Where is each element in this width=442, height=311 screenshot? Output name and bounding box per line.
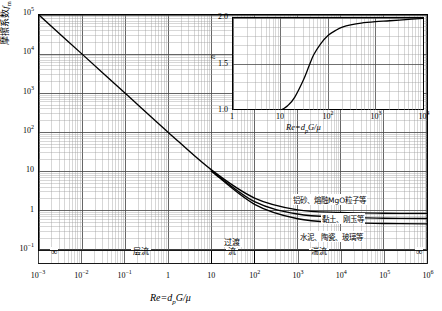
main-x-tick-label: 10−1 xyxy=(114,272,136,280)
flow-regime-band xyxy=(38,250,428,270)
figure-root: 摩擦系数fm Re=dpG/μ 10510410310210110−1 10−3… xyxy=(0,0,442,311)
inset-chart-plot-area xyxy=(232,17,424,110)
main-x-tick-label: 10 xyxy=(200,272,222,280)
inset-x-axis-label: Re=dpG/μ xyxy=(286,122,321,132)
main-x-axis-label-tail: G/μ xyxy=(176,292,191,303)
main-y-tick-label: 10−1 xyxy=(0,245,34,253)
main-x-tick-label: 10−2 xyxy=(70,272,92,280)
main-y-tick-label: 104 xyxy=(0,48,34,56)
inset-x-axis-label-tail: G/μ xyxy=(308,122,321,132)
annotation-cement-ceramic-glass: 水泥、陶瓷、玻璃等 xyxy=(299,231,364,242)
main-x-tick-label: 10−3 xyxy=(27,272,49,280)
main-y-tick-label: 10 xyxy=(0,166,34,174)
main-x-axis-label: Re=dpG/μ xyxy=(150,292,191,303)
main-y-tick-label: 103 xyxy=(0,88,34,96)
main-x-tick-label: 104 xyxy=(330,272,352,280)
inset-x-tick-label: 1 xyxy=(221,113,243,121)
main-y-tick-label: 1 xyxy=(0,206,34,214)
inset-x-tick-label: 102 xyxy=(317,113,339,121)
main-x-tick-label: 1 xyxy=(157,272,179,280)
main-x-tick-label: 106 xyxy=(417,272,439,280)
main-x-tick-label: 102 xyxy=(244,272,266,280)
main-y-tick-label: 102 xyxy=(0,127,34,135)
inset-x-axis-label-head: Re=d xyxy=(286,122,305,132)
main-x-tick-label: 105 xyxy=(374,272,396,280)
inset-x-tick-label: 10 xyxy=(269,113,291,121)
main-x-tick-label: 103 xyxy=(287,272,309,280)
inset-y-axis-label: n xyxy=(208,42,217,72)
main-y-axis-label-sub: m xyxy=(5,1,12,6)
inset-chart-curve xyxy=(233,18,423,110)
annotation-clay-corundum: 黏土、刚玉等 xyxy=(321,213,365,224)
annotation-alumina-mgo: 铝砂、熔融MgO粒子等 xyxy=(292,194,367,205)
inset-x-tick-label: 104 xyxy=(413,113,435,121)
inset-y-tick-label: 2.0 xyxy=(208,13,228,21)
main-y-tick-label: 105 xyxy=(0,9,34,17)
inset-x-tick-label: 103 xyxy=(365,113,387,121)
inset-y-tick-label: 1.5 xyxy=(208,60,228,68)
main-x-axis-label-head: Re=d xyxy=(150,292,172,303)
